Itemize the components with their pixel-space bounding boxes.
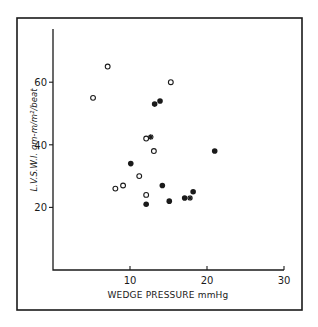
- filled-circle-point: [152, 101, 158, 107]
- y-axis-label: L.V.S.W.I. gm-m/m²/beat: [29, 88, 39, 192]
- filled-circle-point: [166, 198, 172, 204]
- x-tick-label: 30: [278, 275, 291, 286]
- open-circle-point: [121, 183, 126, 188]
- filled-circle-point: [128, 161, 134, 167]
- filled-circle-point: [143, 201, 149, 207]
- x-tick-label: 10: [124, 275, 137, 286]
- filled-circle-point: [212, 148, 218, 154]
- filled-circle-point: [160, 183, 166, 189]
- open-circle-point: [91, 95, 96, 100]
- filled-circle-point: [157, 98, 163, 104]
- y-tick-label: 20: [34, 202, 47, 213]
- scatter-chart: 102030204060 WEDGE PRESSURE mmHg L.V.S.W…: [0, 0, 318, 327]
- axis-lines: [53, 29, 284, 270]
- data-points: [91, 64, 218, 207]
- star-point: [148, 134, 154, 140]
- x-tick-label: 20: [201, 275, 214, 286]
- open-circle-point: [144, 136, 149, 141]
- open-circle-point: [168, 80, 173, 85]
- star-point: [187, 195, 193, 201]
- open-circle-point: [113, 186, 118, 191]
- open-circle-point: [151, 149, 156, 154]
- x-axis-label: WEDGE PRESSURE mmHg: [107, 290, 228, 300]
- open-circle-point: [105, 64, 110, 69]
- open-circle-point: [144, 192, 149, 197]
- figure-frame: [17, 18, 302, 310]
- filled-circle-point: [182, 195, 188, 201]
- axes: 102030204060: [34, 29, 290, 286]
- y-tick-label: 60: [34, 77, 47, 88]
- open-circle-point: [137, 174, 142, 179]
- filled-circle-point: [190, 189, 196, 195]
